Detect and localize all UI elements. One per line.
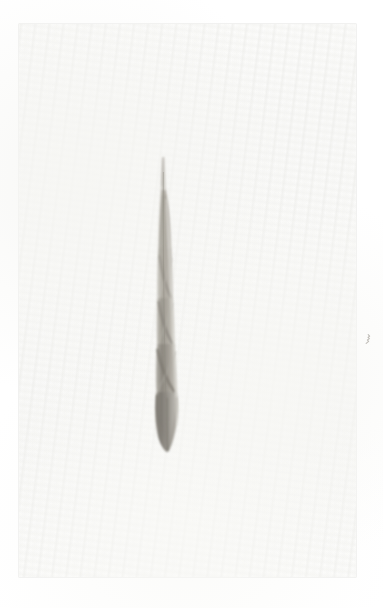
specimen-caption: Single narrow twisted grass blade mounte… — [0, 0, 1, 1]
faint-ink-fleck — [363, 330, 372, 340]
specimen-scan-canvas: Single narrow twisted grass blade mounte… — [0, 0, 383, 608]
paper-sheet — [19, 24, 356, 577]
